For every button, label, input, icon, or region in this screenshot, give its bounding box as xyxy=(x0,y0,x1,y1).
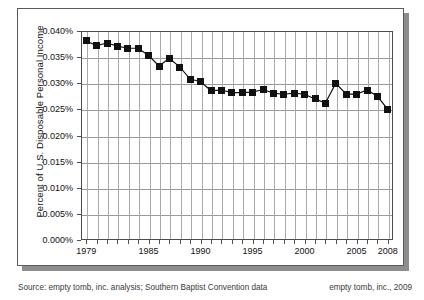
x-tick-mark xyxy=(221,240,222,244)
x-tick-mark xyxy=(201,240,202,244)
x-tick-mark xyxy=(159,240,160,244)
x-tick-mark xyxy=(169,240,170,244)
gridline-vertical xyxy=(243,32,244,239)
y-tick-mark xyxy=(77,83,81,84)
gridline-vertical xyxy=(306,32,307,239)
y-tick-label: 0.030% xyxy=(13,79,73,88)
gridline-vertical xyxy=(358,32,359,239)
x-tick-mark xyxy=(346,240,347,244)
gridline-vertical xyxy=(129,32,130,239)
x-tick-mark xyxy=(97,240,98,244)
plot-area xyxy=(81,31,393,240)
y-axis-title: Percent of U.S. Disposable Personal Inco… xyxy=(34,7,45,237)
x-tick-mark xyxy=(138,240,139,244)
y-tick-label: 0.020% xyxy=(13,132,73,141)
x-tick-mark xyxy=(149,240,150,244)
footer-source: Source: empty tomb, inc. analysis; South… xyxy=(18,283,267,292)
x-tick-mark xyxy=(86,240,87,244)
gridline-vertical xyxy=(170,32,171,239)
gridline-vertical xyxy=(139,32,140,239)
gridline-vertical xyxy=(295,32,296,239)
y-tick-mark xyxy=(77,57,81,58)
y-tick-label: 0.000% xyxy=(13,236,73,245)
x-tick-mark xyxy=(128,240,129,244)
x-tick-mark xyxy=(367,240,368,244)
x-tick-mark xyxy=(357,240,358,244)
footer-credit: empty tomb, inc., 2009 xyxy=(329,283,412,292)
gridline-vertical xyxy=(150,32,151,239)
gridline-vertical xyxy=(87,32,88,239)
gridline-vertical xyxy=(181,32,182,239)
y-tick-mark xyxy=(77,188,81,189)
gridline-vertical xyxy=(274,32,275,239)
x-tick-mark xyxy=(294,240,295,244)
x-tick-mark xyxy=(211,240,212,244)
y-tick-label: 0.015% xyxy=(13,158,73,167)
y-tick-label: 0.010% xyxy=(13,184,73,193)
y-tick-mark xyxy=(77,162,81,163)
x-tick-mark xyxy=(232,240,233,244)
chart-figure: Percent of U.S. Disposable Personal Inco… xyxy=(0,0,424,300)
gridline-vertical xyxy=(368,32,369,239)
gridline-vertical xyxy=(316,32,317,239)
gridline-vertical xyxy=(326,32,327,239)
y-tick-mark xyxy=(77,214,81,215)
x-tick-mark xyxy=(117,240,118,244)
x-tick-label: 1995 xyxy=(233,247,273,256)
gridline-vertical xyxy=(191,32,192,239)
x-tick-mark xyxy=(305,240,306,244)
y-tick-mark xyxy=(77,109,81,110)
gridline-vertical xyxy=(202,32,203,239)
gridline-vertical xyxy=(98,32,99,239)
gridline-vertical xyxy=(389,32,390,239)
clipped-title xyxy=(95,0,345,3)
x-tick-label: 2000 xyxy=(285,247,325,256)
x-tick-label: 1990 xyxy=(181,247,221,256)
x-tick-mark xyxy=(253,240,254,244)
gridline-vertical xyxy=(233,32,234,239)
x-tick-mark xyxy=(388,240,389,244)
x-tick-mark xyxy=(325,240,326,244)
gridline-vertical xyxy=(264,32,265,239)
y-tick-label: 0.040% xyxy=(13,27,73,36)
x-tick-mark xyxy=(273,240,274,244)
x-tick-label: 1985 xyxy=(129,247,169,256)
x-tick-label: 2008 xyxy=(368,247,408,256)
gridline-vertical xyxy=(337,32,338,239)
x-tick-mark xyxy=(377,240,378,244)
x-tick-mark xyxy=(315,240,316,244)
x-tick-mark xyxy=(284,240,285,244)
gridline-vertical xyxy=(108,32,109,239)
y-tick-mark xyxy=(77,31,81,32)
gridline-vertical xyxy=(285,32,286,239)
y-tick-label: 0.025% xyxy=(13,105,73,114)
x-tick-mark xyxy=(190,240,191,244)
gridline-vertical xyxy=(222,32,223,239)
x-tick-mark xyxy=(107,240,108,244)
gridline-vertical xyxy=(347,32,348,239)
x-tick-label: 1979 xyxy=(66,247,106,256)
gridline-vertical xyxy=(118,32,119,239)
y-tick-mark xyxy=(77,136,81,137)
gridline-vertical xyxy=(254,32,255,239)
x-tick-mark xyxy=(263,240,264,244)
gridline-vertical xyxy=(212,32,213,239)
gridline-vertical xyxy=(160,32,161,239)
y-tick-label: 0.035% xyxy=(13,53,73,62)
y-tick-mark xyxy=(77,240,81,241)
y-tick-label: 0.005% xyxy=(13,210,73,219)
x-tick-mark xyxy=(336,240,337,244)
x-tick-mark xyxy=(242,240,243,244)
gridline-vertical xyxy=(378,32,379,239)
x-tick-mark xyxy=(180,240,181,244)
gridlines xyxy=(82,32,392,239)
